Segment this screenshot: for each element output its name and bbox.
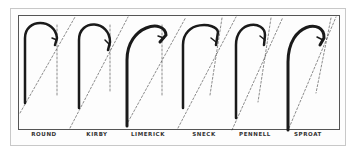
- hook-limerick: [127, 17, 186, 126]
- label-round: ROUND: [31, 131, 57, 137]
- label-sproat: SPROAT: [294, 131, 322, 137]
- label-kirby: KIRBY: [86, 131, 107, 137]
- hook-round: [20, 17, 75, 113]
- label-limerick: LIMERICK: [131, 131, 165, 137]
- label-pennell: PENNELL: [239, 131, 271, 137]
- hook-kirby: [70, 17, 128, 128]
- label-sneck: SNECK: [192, 131, 216, 137]
- hook-sproat: [288, 17, 336, 130]
- hook-pennell: [232, 17, 283, 130]
- hook-sneck: [178, 17, 236, 128]
